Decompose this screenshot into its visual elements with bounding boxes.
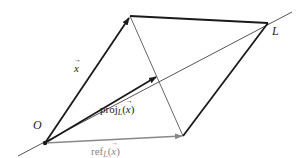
vector-x-arrow xyxy=(45,18,129,143)
proj-prefix: proj xyxy=(100,103,118,115)
vector-x-symbol: x xyxy=(74,63,79,74)
ref-arg-vector: x xyxy=(111,146,116,157)
projection-label: projL(x) xyxy=(100,104,134,117)
perpendicular-segment xyxy=(130,16,183,136)
origin-point xyxy=(43,141,47,145)
parallelogram-top-edge xyxy=(130,16,268,23)
origin-label: O xyxy=(33,119,42,131)
proj-arg-vector: x xyxy=(126,104,131,115)
parallelogram-right-edge xyxy=(183,23,268,136)
reflection-diagram xyxy=(0,0,301,158)
reflection-label: refL(x) xyxy=(91,146,120,158)
line-l-label: L xyxy=(272,25,279,37)
vector-x-label: x xyxy=(74,63,79,74)
ref-prefix: ref xyxy=(91,145,103,157)
